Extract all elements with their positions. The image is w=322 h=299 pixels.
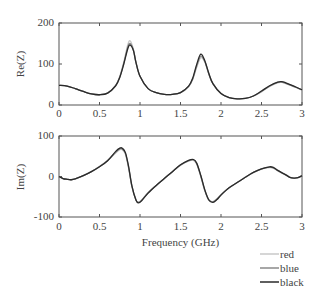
series-line-black xyxy=(59,148,302,203)
legend-label-blue: blue xyxy=(280,262,299,274)
re-z-xtick: 1.5 xyxy=(174,107,188,119)
series-line-blue xyxy=(59,43,302,99)
re-z-xtick: 0 xyxy=(56,107,62,119)
re-z-ytick-0: 0 xyxy=(49,98,55,110)
im-z-xtick: 1 xyxy=(137,220,143,232)
im-z-ytick-0: 0 xyxy=(49,170,55,182)
re-z-ytick-200: 200 xyxy=(38,16,55,28)
re-z-xtick: 2 xyxy=(218,107,224,119)
series-line-red xyxy=(59,149,302,202)
im-z-ytick-neg100: -100 xyxy=(34,210,55,222)
series-line-red xyxy=(59,41,302,99)
legend: red blue black xyxy=(260,248,304,288)
im-z-xtick: 3 xyxy=(299,220,305,232)
re-z-xtick: 3 xyxy=(299,107,305,119)
figure: 0 100 200 0 0.5 1 1.5 2 2.5 3 Re(Z) -100… xyxy=(0,0,322,299)
re-z-xtick: 1 xyxy=(137,107,143,119)
im-z-xtick: 0.5 xyxy=(93,220,107,232)
re-z-xtick: 0.5 xyxy=(93,107,107,119)
re-z-ytick-100: 100 xyxy=(38,57,55,69)
im-z-xtick: 1.5 xyxy=(174,220,188,232)
im-z-ylabel: Im(Z) xyxy=(14,164,27,191)
legend-label-black: black xyxy=(280,276,304,288)
x-axis-label: Frequency (GHz) xyxy=(142,236,220,249)
series-line-blue xyxy=(59,148,302,202)
im-z-xtick: 2 xyxy=(218,220,224,232)
im-z-xtick: 2.5 xyxy=(255,220,269,232)
im-z-plot: -100 0 100 0 0.5 1 1.5 2 2.5 3 Im(Z) Fre… xyxy=(14,129,305,249)
im-z-curves xyxy=(59,148,302,203)
re-z-curves xyxy=(59,41,302,99)
im-z-xtick: 0 xyxy=(56,220,62,232)
im-z-axes-frame xyxy=(59,136,302,217)
legend-label-red: red xyxy=(280,248,295,260)
re-z-ylabel: Re(Z) xyxy=(14,51,27,78)
im-z-ticks xyxy=(59,136,302,217)
re-z-plot: 0 100 200 0 0.5 1 1.5 2 2.5 3 Re(Z) xyxy=(14,16,305,119)
im-z-ytick-100: 100 xyxy=(38,129,55,141)
series-line-black xyxy=(59,45,302,99)
re-z-xtick: 2.5 xyxy=(255,107,269,119)
